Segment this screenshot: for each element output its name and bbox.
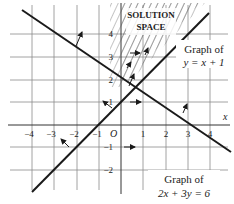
svg-text:−2: −2: [69, 129, 79, 139]
svg-text:3: 3: [109, 52, 114, 62]
line2-caption-line1: Graph of: [164, 173, 204, 185]
region-label-line1: SOLUTION: [127, 10, 175, 20]
x-axis-label: x: [222, 111, 228, 122]
x-tick-labels: −4 −3 −2 −1 1 2 3 4: [24, 129, 213, 139]
svg-text:1: 1: [141, 129, 146, 139]
svg-text:−1: −1: [103, 142, 113, 152]
line1-caption-line1: Graph of: [184, 43, 224, 55]
svg-text:3: 3: [186, 129, 191, 139]
inequality-graph: SOLUTION SPACE −4 −3 −2 −1 1 2 3 4 O x 4…: [0, 0, 234, 204]
region-label-line2: SPACE: [137, 22, 166, 32]
svg-text:2: 2: [109, 75, 114, 85]
svg-text:2: 2: [164, 129, 169, 139]
svg-text:−4: −4: [24, 129, 34, 139]
line1-caption-line2: y = x + 1: [182, 56, 224, 68]
line2-caption-line2: 2x + 3y = 6: [158, 187, 211, 199]
svg-text:4: 4: [109, 29, 114, 39]
svg-text:−3: −3: [46, 129, 56, 139]
svg-text:4: 4: [208, 129, 213, 139]
svg-text:1: 1: [109, 97, 114, 107]
origin-label: O: [110, 128, 117, 139]
svg-text:−1: −1: [92, 129, 102, 139]
svg-text:−2: −2: [103, 165, 113, 175]
